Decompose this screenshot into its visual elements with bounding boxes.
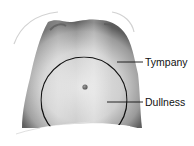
navel <box>82 84 87 89</box>
abdomen-highlight <box>22 19 142 128</box>
abdomen-diagram <box>0 0 194 146</box>
dullness-label: Dullness <box>145 97 185 108</box>
drape-cover <box>40 124 130 146</box>
tympany-label: Tympany <box>145 57 188 68</box>
